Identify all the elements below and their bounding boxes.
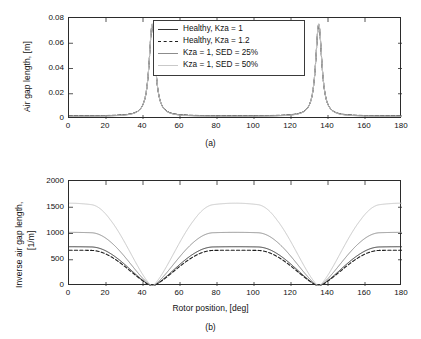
- x-tick: 60: [169, 288, 189, 297]
- x-tick: 140: [317, 121, 337, 130]
- x-tick: 120: [280, 121, 300, 130]
- legend-item: Healthy, Kza = 1: [157, 23, 300, 35]
- panel-a-caption: (a): [0, 138, 421, 148]
- legend-label: Kza = 1, SED = 25%: [183, 48, 258, 58]
- y-tick: 1500: [28, 202, 64, 211]
- panel-b: Inverse air gap length, [1/m] 2000 1500 …: [0, 160, 421, 339]
- x-tick: 0: [58, 121, 78, 130]
- panel-b-y-axis-label: Inverse air gap length,: [14, 202, 24, 288]
- panel-b-caption: (b): [0, 322, 421, 332]
- panel-a-y-axis-label: Air gap length, [m]: [22, 41, 32, 112]
- x-tick: 80: [206, 121, 226, 130]
- x-tick: 20: [95, 121, 115, 130]
- x-tick: 80: [206, 288, 226, 297]
- legend-label: Kza = 1, SED = 50%: [183, 60, 258, 70]
- x-tick: 120: [280, 288, 300, 297]
- x-tick: 20: [95, 288, 115, 297]
- panel-b-x-axis-label: Rotor position, [deg]: [0, 303, 421, 313]
- legend-line-sample: [157, 24, 179, 34]
- legend-line-sample: [157, 36, 179, 46]
- panel-a-plot-area: Healthy, Kza = 1 Healthy, Kza = 1.2 Kza …: [68, 17, 401, 118]
- legend-line-sample: [157, 48, 179, 58]
- legend-label: Healthy, Kza = 1.2: [183, 36, 250, 46]
- x-tick: 140: [317, 288, 337, 297]
- x-tick: 100: [243, 288, 263, 297]
- legend-item: Kza = 1, SED = 50%: [157, 59, 300, 71]
- panel-b-y-axis-label-line1: Inverse air gap length,: [14, 202, 24, 288]
- x-tick: 160: [354, 288, 374, 297]
- legend-line-sample: [157, 60, 179, 70]
- x-tick: 0: [58, 288, 78, 297]
- x-tick: 100: [243, 121, 263, 130]
- panel-a: Air gap length, [m] 0.08 0.06 0.04 0.02 …: [0, 0, 421, 160]
- legend-item: Healthy, Kza = 1.2: [157, 35, 300, 47]
- y-tick: 2000: [28, 176, 64, 185]
- x-tick: 40: [132, 288, 152, 297]
- panel-b-plot-area: [68, 180, 401, 285]
- y-tick: 0.04: [28, 63, 64, 72]
- panel-b-curves: [69, 181, 402, 286]
- legend-label: Healthy, Kza = 1: [183, 24, 243, 34]
- y-tick: 0.08: [28, 13, 64, 22]
- y-tick: 1000: [28, 228, 64, 237]
- legend-item: Kza = 1, SED = 25%: [157, 47, 300, 59]
- figure-container: Air gap length, [m] 0.08 0.06 0.04 0.02 …: [0, 0, 421, 339]
- x-tick: 160: [354, 121, 374, 130]
- y-tick: 0.02: [28, 88, 64, 97]
- panel-b-ticks: [69, 181, 402, 286]
- x-tick: 180: [391, 288, 411, 297]
- legend-box: Healthy, Kza = 1 Healthy, Kza = 1.2 Kza …: [153, 20, 305, 76]
- y-tick: 0.06: [28, 38, 64, 47]
- x-tick: 60: [169, 121, 189, 130]
- y-tick: 500: [28, 254, 64, 263]
- x-tick: 40: [132, 121, 152, 130]
- x-tick: 180: [391, 121, 411, 130]
